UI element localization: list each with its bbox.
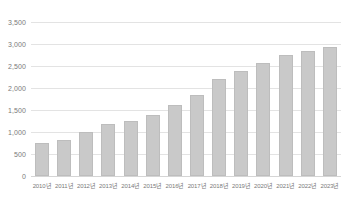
y-axis-tick-label: 0 — [22, 173, 26, 180]
bar-slot: 2013년 — [97, 22, 119, 176]
bar[interactable] — [323, 47, 337, 176]
y-axis-tick-label: 3,000 — [8, 41, 26, 48]
y-axis-tick-label: 1,000 — [8, 129, 26, 136]
bar-slot: 2017년 — [186, 22, 208, 176]
x-axis-tick-label: 2013년 — [99, 181, 118, 190]
bar[interactable] — [234, 71, 248, 176]
x-axis-tick-label: 2022년 — [298, 181, 317, 190]
bar[interactable] — [301, 51, 315, 176]
bar[interactable] — [124, 121, 138, 176]
x-axis-tick-label: 2016년 — [165, 181, 184, 190]
x-axis-tick-label: 2020년 — [254, 181, 273, 190]
bar[interactable] — [146, 115, 160, 176]
bar-slot: 2012년 — [75, 22, 97, 176]
bars-group: 2010년2011년2012년2013년2014년2015년2016년2017년… — [31, 22, 341, 176]
plot-area: 05001,0001,5002,0002,5003,0003,500 2010년… — [31, 22, 341, 176]
bar[interactable] — [101, 124, 115, 176]
bar[interactable] — [57, 140, 71, 176]
bar-slot: 2018년 — [208, 22, 230, 176]
x-axis-tick-label: 2011년 — [55, 181, 73, 190]
bar[interactable] — [79, 132, 93, 176]
y-axis-tick-label: 3,500 — [8, 19, 26, 26]
y-axis-tick-label: 500 — [14, 151, 26, 158]
bar-chart: 05001,0001,5002,0002,5003,0003,500 2010년… — [0, 0, 346, 200]
bar[interactable] — [168, 105, 182, 176]
bar-slot: 2021년 — [275, 22, 297, 176]
bar-slot: 2023년 — [319, 22, 341, 176]
bar-slot: 2014년 — [120, 22, 142, 176]
y-axis-tick-label: 2,500 — [8, 63, 26, 70]
x-axis-tick-label: 2021년 — [276, 181, 295, 190]
bar-slot: 2015년 — [142, 22, 164, 176]
bar-slot: 2019년 — [230, 22, 252, 176]
x-axis-tick-label: 2023년 — [320, 181, 339, 190]
bar-slot: 2016년 — [164, 22, 186, 176]
gridline — [31, 176, 341, 177]
x-axis-tick-label: 2014년 — [121, 181, 140, 190]
x-axis-tick-label: 2019년 — [232, 181, 251, 190]
bar[interactable] — [212, 79, 226, 176]
bar-slot: 2011년 — [53, 22, 75, 176]
x-axis-tick-label: 2017년 — [188, 181, 207, 190]
bar-slot: 2022년 — [297, 22, 319, 176]
y-axis-tick-label: 1,500 — [8, 107, 26, 114]
bar[interactable] — [35, 143, 49, 176]
bar[interactable] — [190, 95, 204, 176]
x-axis-tick-label: 2015년 — [143, 181, 162, 190]
bar-slot: 2010년 — [31, 22, 53, 176]
bar-slot: 2020년 — [252, 22, 274, 176]
x-axis-tick-label: 2012년 — [77, 181, 96, 190]
y-axis-tick-label: 2,000 — [8, 85, 26, 92]
bar[interactable] — [279, 55, 293, 176]
x-axis-tick-label: 2010년 — [33, 181, 52, 190]
bar[interactable] — [256, 63, 270, 176]
x-axis-tick-label: 2018년 — [210, 181, 229, 190]
